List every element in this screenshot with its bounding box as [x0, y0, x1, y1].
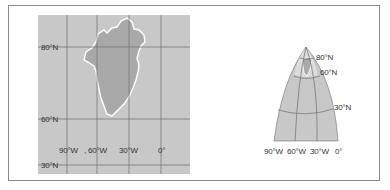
- right-lat-label-60n: 60°N: [320, 68, 337, 77]
- left-lon-label-0: 0°: [158, 146, 165, 155]
- right-lon-label-90w: 90°W: [264, 147, 283, 156]
- right-lat-label-80n: 80°N: [316, 53, 333, 62]
- left-lon-label-60w: , 60°W: [84, 146, 107, 155]
- left-lat-label-80n: 80°N: [41, 43, 58, 52]
- right-lon-label-0: 0°: [335, 147, 342, 156]
- right-lon-label-30w: 30°W: [310, 147, 329, 156]
- left-lon-label-90w: 90°W: [59, 146, 78, 155]
- left-lon-label-30w: 30°W: [119, 146, 138, 155]
- map-figure: [0, 0, 390, 190]
- right-lon-label-60w: 60°W: [287, 147, 306, 156]
- right-lat-label-30n: 30°N: [334, 103, 351, 112]
- left-lat-label-60n: 60°N: [41, 115, 58, 124]
- left-lat-label-30n: 30°N: [41, 161, 58, 170]
